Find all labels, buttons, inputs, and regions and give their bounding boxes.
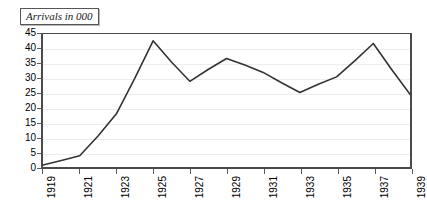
y-tick-label: 0 <box>2 163 36 173</box>
y-tick-label: 5 <box>2 148 36 158</box>
y-tick-mark <box>37 33 42 34</box>
x-tick-mark <box>338 169 339 174</box>
y-tick-mark <box>37 78 42 79</box>
y-tick-mark <box>37 93 42 94</box>
x-tick-label: 1931 <box>269 176 279 198</box>
y-tick-mark <box>37 48 42 49</box>
y-tick-mark <box>37 138 42 139</box>
x-tick-label: 1933 <box>306 176 316 198</box>
x-tick-label: 1919 <box>47 176 57 198</box>
x-tick-label: 1927 <box>195 176 205 198</box>
y-tick-mark <box>37 63 42 64</box>
y-tick-label: 20 <box>2 103 36 113</box>
y-tick-mark <box>37 123 42 124</box>
y-tick-label: 10 <box>2 133 36 143</box>
x-tick-mark <box>264 169 265 174</box>
x-tick-label: 1935 <box>343 176 353 198</box>
y-axis-labels: 454035302520151050 <box>0 0 36 219</box>
y-tick-label: 25 <box>2 88 36 98</box>
x-tick-label: 1937 <box>380 176 390 198</box>
series-polyline <box>43 41 410 165</box>
y-tick-label: 30 <box>2 73 36 83</box>
y-tick-label: 15 <box>2 118 36 128</box>
x-tick-mark <box>79 169 80 174</box>
x-tick-label: 1921 <box>84 176 94 198</box>
x-tick-mark <box>412 169 413 174</box>
y-tick-label: 35 <box>2 58 36 68</box>
x-tick-mark <box>42 169 43 174</box>
x-tick-mark <box>301 169 302 174</box>
series-line <box>43 34 410 167</box>
x-tick-mark <box>116 169 117 174</box>
plot-area <box>42 33 412 168</box>
x-tick-mark <box>153 169 154 174</box>
x-tick-label: 1929 <box>232 176 242 198</box>
x-tick-mark <box>190 169 191 174</box>
x-tick-mark <box>375 169 376 174</box>
x-tick-label: 1923 <box>121 176 131 198</box>
y-tick-mark <box>37 108 42 109</box>
y-tick-label: 40 <box>2 43 36 53</box>
x-tick-mark <box>227 169 228 174</box>
y-tick-label: 45 <box>2 28 36 38</box>
x-tick-label: 1939 <box>417 176 427 198</box>
x-tick-label: 1925 <box>158 176 168 198</box>
y-tick-mark <box>37 153 42 154</box>
